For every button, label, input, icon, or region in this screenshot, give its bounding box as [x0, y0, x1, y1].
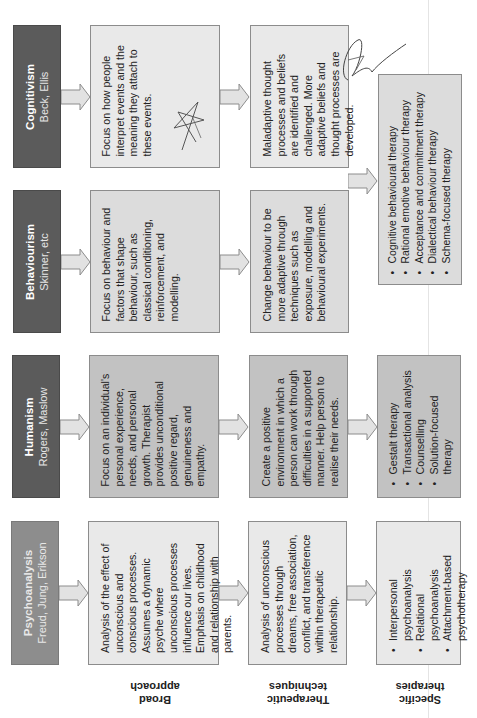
box-text: Focus on an individual's personal experi…	[99, 367, 208, 486]
list-item: Transactional analysis	[401, 363, 415, 474]
header-psychoanalysis: Psychoanalysis Freud, Jung, Erikson	[11, 521, 59, 665]
list-item: Gestalt therapy	[387, 363, 401, 474]
label-line: Broad	[110, 693, 200, 706]
box-text: Create a positive environment in which a…	[259, 367, 341, 486]
list-item: Cognitive behavioural therapy	[386, 82, 399, 263]
header-title: Humanism	[22, 397, 36, 456]
list-item: Dialectical behaviour therapy	[426, 82, 439, 263]
arrow-right-icon	[348, 168, 378, 194]
label-line: techniques	[253, 680, 343, 693]
header-title: Cognitivism	[23, 64, 37, 130]
psychoanalysis-techniques: Analysis of unconscious processes throug…	[248, 521, 347, 665]
humanism-techniques: Create a positive environment in which a…	[249, 355, 348, 498]
list-item: Schema-focused therapy	[440, 82, 453, 263]
psychoanalysis-broad-approach: Analysis of the effect of unconscious an…	[88, 521, 219, 665]
label-line: Specific	[375, 693, 465, 706]
arrow-right-icon	[60, 414, 90, 440]
arrow-right-icon	[348, 414, 378, 440]
label-line: approach	[110, 680, 200, 693]
cognitivism-techniques: Maladaptive thought processes and belief…	[250, 25, 349, 168]
behaviourism-broad-approach: Focus on behaviour and factors that shap…	[90, 190, 220, 333]
therapy-list: Gestalt therapy Transactional analysis C…	[387, 363, 455, 486]
therapy-list: Interpersonal psychoanalysis Relational …	[386, 529, 468, 653]
box-text: Focus on how people interpret events and…	[100, 37, 154, 156]
arrow-right-icon	[219, 414, 249, 440]
therapy-list: Cognitive behavioural therapy Rational e…	[386, 82, 453, 275]
header-title: Behaviourism	[23, 223, 37, 299]
arrow-right-icon	[219, 580, 249, 606]
arrow-right-icon	[61, 249, 91, 275]
label-line: Therapeutic	[253, 693, 343, 706]
humanism-therapies: Gestalt therapy Transactional analysis C…	[377, 355, 461, 498]
header-cognitivism: Cognitivism Beck, Ellis	[13, 25, 61, 168]
header-theorists: Beck, Ellis	[37, 71, 51, 122]
header-humanism: Humanism Rogers, Maslow	[12, 355, 60, 498]
list-item: Acceptance and commitment therapy	[413, 82, 426, 263]
arrow-right-icon	[220, 249, 250, 275]
list-item: Solution-focused therapy	[428, 363, 455, 474]
column-label-therapeutic-techniques: Therapeutic techniques	[253, 680, 343, 706]
box-text: Analysis of the effect of unconscious an…	[98, 533, 234, 653]
handwritten-star-mark	[168, 98, 208, 154]
box-text: Change behaviour to be more adaptive thr…	[260, 202, 328, 321]
arrow-right-icon	[59, 580, 89, 606]
header-theorists: Skinner, etc	[37, 233, 51, 290]
list-item: Counselling	[414, 363, 428, 474]
list-item: Relational psychoanalysis	[413, 529, 440, 641]
cognitive-behavioural-therapies: Cognitive behavioural therapy Rational e…	[378, 74, 462, 285]
arrow-right-icon	[220, 84, 250, 110]
arrow-right-icon	[347, 580, 377, 606]
list-item: Rational emotive behaviour therapy	[399, 82, 412, 263]
behaviourism-techniques: Change behaviour to be more adaptive thr…	[250, 190, 349, 333]
psychoanalysis-therapies: Interpersonal psychoanalysis Relational …	[376, 521, 461, 665]
label-line: therapies	[375, 680, 465, 693]
column-label-broad-approach: Broad approach	[110, 680, 200, 706]
column-label-specific-therapies: Specific therapies	[375, 680, 465, 706]
header-theorists: Freud, Jung, Erikson	[35, 542, 49, 644]
humanism-broad-approach: Focus on an individual's personal experi…	[89, 355, 219, 498]
list-item: Attachment-based psychotherapy	[440, 529, 467, 641]
box-text: Analysis of unconscious processes throug…	[258, 533, 340, 653]
header-behaviourism: Behaviourism Skinner, etc	[13, 190, 61, 333]
arrow-right-icon	[61, 84, 91, 110]
header-theorists: Rogers, Maslow	[36, 387, 50, 466]
box-text: Focus on behaviour and factors that shap…	[100, 202, 182, 321]
header-title: Psychoanalysis	[21, 550, 35, 636]
list-item: Interpersonal psychoanalysis	[386, 529, 413, 641]
